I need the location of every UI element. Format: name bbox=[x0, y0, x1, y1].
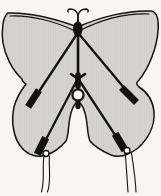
tow-ring bbox=[72, 89, 83, 100]
pocket-bottom-left bbox=[39, 141, 44, 151]
butterfly-kite-drawing bbox=[0, 0, 161, 196]
butterfly-kite-figure bbox=[0, 0, 161, 196]
pocket-bottom-right bbox=[117, 137, 123, 147]
